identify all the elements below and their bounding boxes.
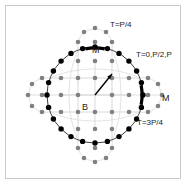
label-magnetization-top: M — [92, 46, 100, 55]
precession-diagram — [6, 6, 182, 180]
field-vector-B — [95, 74, 112, 95]
label-t-three-quarter-period: T=3P/4 — [137, 119, 163, 127]
magnetization-arc-right — [141, 85, 142, 104]
figure-root: T=P/4 T=0,P/2,P T=3P/4 M M B — [0, 0, 188, 186]
label-t-zero-half-full-period: T=0,P/2,P — [136, 51, 172, 59]
label-magnetization-right: M — [162, 94, 170, 103]
figure-frame: T=P/4 T=0,P/2,P T=3P/4 M M B — [5, 5, 181, 179]
label-field-vector: B — [82, 103, 88, 112]
label-t-quarter-period: T=P/4 — [110, 21, 132, 29]
